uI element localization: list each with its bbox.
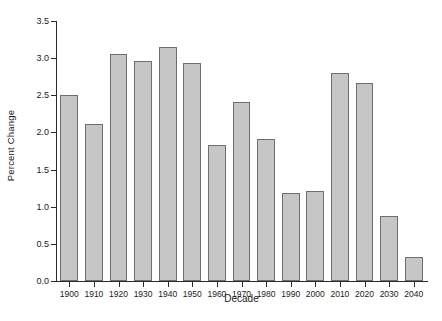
bar bbox=[257, 139, 275, 281]
x-axis-tick-mark bbox=[168, 282, 169, 287]
y-axis-tick-mark bbox=[51, 21, 57, 22]
x-axis-tick-mark bbox=[69, 282, 70, 287]
y-axis-tick-mark bbox=[51, 58, 57, 59]
bar bbox=[331, 73, 349, 281]
x-axis-tick-mark bbox=[291, 282, 292, 287]
x-axis-tick-mark bbox=[119, 282, 120, 287]
y-axis-line bbox=[56, 21, 57, 282]
x-axis-tick-mark bbox=[315, 282, 316, 287]
x-axis-tick-mark bbox=[266, 282, 267, 287]
bar bbox=[405, 257, 423, 282]
y-axis-tick-mark bbox=[51, 170, 57, 171]
y-axis-tick-mark bbox=[51, 207, 57, 208]
bar bbox=[110, 54, 128, 281]
y-axis-tick-label: 3.0 bbox=[36, 54, 49, 63]
bar bbox=[306, 191, 324, 281]
x-axis-tick-mark bbox=[389, 282, 390, 287]
bar bbox=[60, 95, 78, 281]
bar bbox=[233, 102, 251, 281]
x-axis-tick-mark bbox=[143, 282, 144, 287]
x-axis-label: Decade bbox=[57, 293, 426, 304]
y-axis-tick-label: 0.0 bbox=[36, 277, 49, 286]
bar bbox=[183, 63, 201, 281]
y-axis-tick-label: 3.5 bbox=[36, 17, 49, 26]
bar bbox=[159, 47, 177, 281]
x-axis-tick-mark bbox=[94, 282, 95, 287]
bar bbox=[356, 83, 374, 281]
bar bbox=[208, 145, 226, 281]
x-axis-tick-mark bbox=[217, 282, 218, 287]
y-axis-tick-label: 2.0 bbox=[36, 128, 49, 137]
y-axis-tick-label: 0.5 bbox=[36, 239, 49, 248]
x-axis-tick-mark bbox=[414, 282, 415, 287]
bar bbox=[380, 216, 398, 281]
bar bbox=[282, 193, 300, 281]
y-axis-tick-mark bbox=[51, 132, 57, 133]
y-axis-tick-label: 1.0 bbox=[36, 202, 49, 211]
y-axis-tick-mark bbox=[51, 95, 57, 96]
bar bbox=[134, 61, 152, 281]
y-axis-tick-mark bbox=[51, 244, 57, 245]
bar bbox=[85, 124, 103, 281]
x-axis-tick-mark bbox=[365, 282, 366, 287]
bar-chart: Percent Change 0.00.51.01.52.02.53.03.5 … bbox=[0, 0, 442, 321]
plot-area: 0.00.51.01.52.02.53.03.5 190019101920193… bbox=[57, 21, 426, 281]
x-axis-tick-mark bbox=[192, 282, 193, 287]
y-axis-tick-label: 1.5 bbox=[36, 165, 49, 174]
x-axis-tick-mark bbox=[242, 282, 243, 287]
y-axis-label-text: Percent Change bbox=[6, 109, 17, 180]
x-axis-tick-mark bbox=[340, 282, 341, 287]
y-axis-label: Percent Change bbox=[0, 0, 22, 290]
y-axis-tick-mark bbox=[51, 281, 57, 282]
y-axis-tick-label: 2.5 bbox=[36, 91, 49, 100]
